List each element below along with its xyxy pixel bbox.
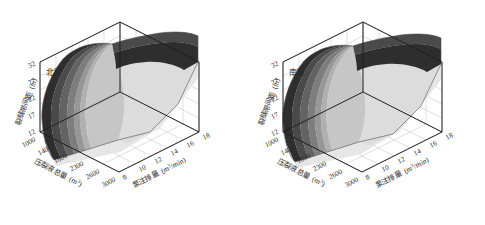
south-z-tick-4: 32 [269, 59, 279, 70]
south-panel-title: 南区 [289, 67, 305, 77]
north-y-tick-2: 12 [153, 155, 163, 166]
south-x-tick-0: 1000 [263, 135, 280, 149]
south-y-tick-5: 18 [444, 131, 454, 142]
south-z-title-text: 裂缝带间距 [256, 90, 277, 127]
north-z-tick-4: 32 [27, 59, 37, 70]
north-y-tick-3: 14 [169, 147, 179, 158]
panel-north: 12 17 22 27 32 裂缝带间距 (m) 1000 1400 1800 … [0, 0, 243, 225]
south-y-tick-3: 14 [412, 147, 422, 158]
north-z-tick-1: 17 [27, 110, 37, 121]
north-y-tick-5: 18 [201, 131, 211, 142]
south-surface-chart: 12 17 22 27 32 裂缝带间距 (m) 1000 1400 1800 … [243, 0, 485, 225]
south-y-title-text: 泵注排量 [373, 169, 403, 190]
north-x-tick-0: 1000 [20, 135, 37, 149]
south-y-tick-2: 12 [396, 155, 406, 166]
south-y-tick-1: 10 [380, 163, 390, 174]
south-z-tick-1: 17 [269, 110, 279, 121]
north-y-tick-4: 16 [185, 139, 195, 150]
south-x-tick-4: 2600 [327, 167, 344, 181]
north-z-title-text: 裂缝带间距 [13, 90, 34, 127]
north-x-tick-4: 2600 [84, 167, 101, 181]
south-x-tick-5: 3000 [343, 175, 360, 189]
north-y-tick-0: 8 [121, 173, 128, 182]
north-y-title-text: 泵注排量 [131, 169, 161, 190]
north-x-tick-5: 3000 [100, 175, 117, 189]
surface-plot-figure: 12 17 22 27 32 裂缝带间距 (m) 1000 1400 1800 … [0, 0, 485, 225]
north-y-tick-1: 10 [137, 163, 147, 174]
north-surface-chart: 12 17 22 27 32 裂缝带间距 (m) 1000 1400 1800 … [0, 0, 243, 225]
panel-south: 12 17 22 27 32 裂缝带间距 (m) 1000 1400 1800 … [243, 0, 485, 225]
south-y-tick-4: 16 [428, 139, 438, 150]
south-y-tick-0: 8 [364, 173, 371, 182]
north-panel-title: 北区 [46, 68, 62, 77]
